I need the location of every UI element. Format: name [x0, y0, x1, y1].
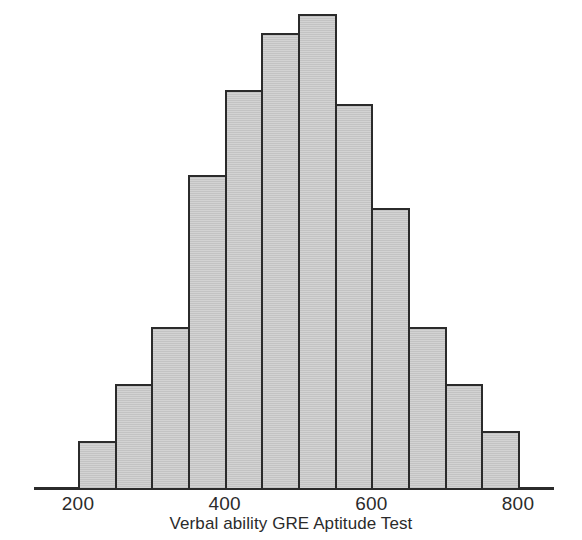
histogram-bar: [78, 441, 117, 488]
histogram-bar: [225, 90, 264, 488]
histogram-bar: [371, 208, 410, 488]
x-axis-title: Verbal ability GRE Aptitude Test: [0, 513, 582, 535]
histogram-figure: 200400600800 Verbal ability GRE Aptitude…: [0, 0, 582, 540]
histogram-bar: [335, 104, 374, 488]
histogram-bar: [261, 33, 300, 488]
histogram-bar: [445, 384, 484, 488]
histogram-bar: [481, 431, 520, 488]
histogram-bar: [298, 14, 337, 488]
histogram-bar: [151, 327, 190, 488]
plot-area: [0, 0, 582, 540]
histogram-bar: [408, 327, 447, 488]
histogram-bar: [115, 384, 154, 488]
histogram-bar: [188, 175, 227, 488]
